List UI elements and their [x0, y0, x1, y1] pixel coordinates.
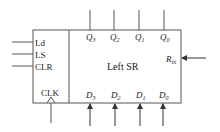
serial-input: Rin [165, 54, 206, 65]
control-inputs: Ld LS CLR [12, 38, 53, 72]
ls-label: LS [35, 50, 46, 60]
outputs: Q3 Q2 Q1 Q0 [86, 10, 170, 43]
d0-label: D0 [158, 90, 169, 101]
ld-label: Ld [35, 38, 45, 48]
clk-label: CLK [41, 88, 60, 98]
rin-label: Rin [165, 54, 176, 65]
q3-label: Q3 [86, 32, 96, 43]
q0-label: Q0 [160, 32, 170, 43]
q1-label: Q1 [135, 32, 145, 43]
register-title: Left SR [107, 61, 139, 72]
q2-label: Q2 [110, 32, 120, 43]
d3-label: D3 [85, 90, 96, 101]
d1-label: D1 [135, 90, 146, 101]
clr-label: CLR [35, 62, 53, 72]
data-inputs: D3 D2 D1 D0 [85, 90, 169, 126]
d2-label: D2 [110, 90, 121, 101]
clock-input: CLK [41, 88, 60, 123]
diagram-svg: Ld LS CLR CLK Q3 Q2 Q1 Q0 Left SR Rin [0, 0, 220, 132]
left-shift-register-diagram: Ld LS CLR CLK Q3 Q2 Q1 Q0 Left SR Rin [0, 0, 220, 132]
